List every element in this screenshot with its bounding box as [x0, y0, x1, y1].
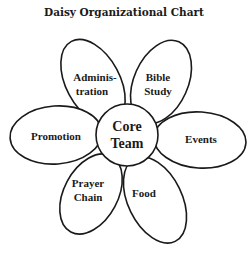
- core-team-label-line1: Core: [112, 119, 141, 134]
- label-bible-study-line1: Bible: [146, 71, 171, 83]
- label-events: Events: [185, 133, 218, 145]
- chart-title: Daisy Organizational Chart: [44, 6, 204, 18]
- label-food: Food: [132, 187, 156, 199]
- label-prayer-chain-line1: Prayer: [72, 177, 104, 189]
- label-administration-line1: Adminis-: [73, 71, 117, 83]
- core-team-label-line2: Team: [111, 136, 144, 151]
- label-administration-line2: tration: [76, 85, 108, 97]
- daisy-org-chart: Daisy Organizational Chart Adminis- trat…: [0, 0, 247, 253]
- label-prayer-chain-line2: Chain: [74, 191, 103, 203]
- core-team-circle: [96, 104, 158, 166]
- label-bible-study-line2: Study: [144, 85, 172, 97]
- label-promotion: Promotion: [31, 130, 81, 142]
